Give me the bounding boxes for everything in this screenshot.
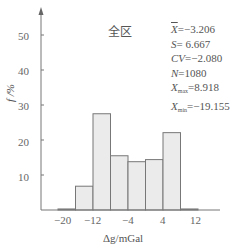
y-axis-label: f /%: [4, 84, 16, 102]
histogram-bar: [76, 186, 94, 210]
y-tick-label: 50: [18, 30, 29, 42]
x-tick-label: 4: [160, 214, 166, 226]
chart-title: 全区: [108, 22, 132, 39]
x-axis-label: Δg/mGal: [103, 232, 143, 244]
histogram-bar: [163, 133, 181, 210]
y-tick-label: 10: [18, 171, 29, 183]
x-tick-label: −20: [54, 214, 71, 226]
stat-std: S= 6.667: [171, 37, 230, 52]
y-axis-arrow-icon: [39, 7, 44, 15]
histogram-bar: [128, 162, 146, 210]
stat-mean: X=−3.206: [171, 22, 230, 37]
histogram-bars: [58, 114, 198, 210]
stat-cv: CV=−2.080: [171, 51, 230, 66]
statistics-box: X=−3.206 S= 6.667 CV=−2.080 N=1080 Xmax=…: [171, 22, 230, 118]
stat-max: Xmax=8.918: [171, 80, 230, 99]
stat-n: N=1080: [171, 66, 230, 81]
y-tick-label: 20: [18, 136, 29, 148]
x-tick-label: 12: [190, 214, 201, 226]
y-tick-label: 30: [18, 100, 29, 112]
histogram-bar: [146, 160, 164, 210]
x-tick-label: −12: [84, 214, 101, 226]
x-tick-label: −4: [122, 214, 134, 226]
stat-min: Xmin=−19.155: [171, 99, 230, 118]
y-tick-label: 40: [18, 65, 29, 77]
histogram-bar: [111, 156, 129, 210]
histogram-bar: [93, 114, 111, 210]
